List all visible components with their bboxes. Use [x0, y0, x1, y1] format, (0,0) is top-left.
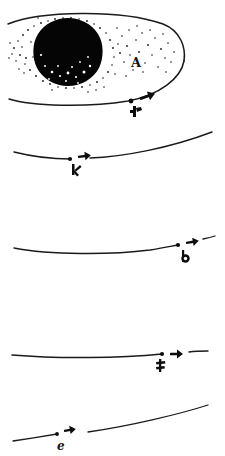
panel-2-curve-right	[90, 132, 212, 158]
panel-4-curve-tail	[189, 351, 208, 352]
panel-4-marker-label-text: f	[157, 372, 158, 373]
panel-2-marker-dot	[68, 157, 72, 161]
panel-3-curve-tail	[203, 236, 215, 239]
panel-3-marker-dot	[176, 243, 180, 247]
panel-3-marker-label	[181, 250, 189, 263]
comet-trajectory-figure: A P	[0, 0, 225, 456]
panel-2-velocity-arrow	[77, 151, 91, 161]
panel-5-marker-label-text: e	[57, 439, 65, 453]
figure-canvas: A P	[0, 0, 225, 456]
panel-1-velocity-arrow	[138, 89, 156, 103]
panel-5-curve-left	[13, 434, 57, 441]
panel-5-marker-dot	[55, 432, 59, 436]
panel-2-marker-label-text: K	[72, 175, 73, 176]
panel-3-velocity-arrow	[185, 237, 199, 248]
panel-2-group: K	[14, 132, 212, 177]
panel-3-curve	[14, 245, 178, 254]
panel-5-velocity-arrow	[63, 425, 76, 435]
panel-3-marker-label-text: b	[182, 262, 183, 263]
panel-4-group: f	[12, 350, 208, 373]
panel-1-marker-dot	[129, 99, 134, 104]
panel-1-marker-label-text: P	[132, 117, 133, 118]
panel-1-group: A P	[8, 13, 184, 118]
comet-nucleus	[33, 18, 102, 86]
panel-5-group: e	[13, 405, 208, 453]
panel-4-marker-dot	[160, 352, 164, 356]
panel-4-marker-label	[156, 359, 165, 372]
panel-5-curve-right	[88, 405, 208, 432]
panel-4-curve	[12, 354, 162, 358]
panel-3-group: b	[14, 236, 215, 263]
panel-4-velocity-arrow	[170, 350, 183, 359]
region-label-a: A	[130, 55, 142, 70]
panel-2-curve-left	[14, 152, 70, 159]
panel-1-marker-label	[130, 106, 142, 117]
panel-2-marker-label	[72, 164, 82, 177]
